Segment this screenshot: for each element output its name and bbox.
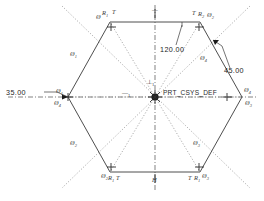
axis-vertical-label: ⊥1: [147, 79, 154, 87]
dimension-angle-corner-text[interactable]: 45.00: [224, 66, 244, 75]
vertex-label-left-lower[interactable]: Ø4: [53, 99, 62, 108]
vertex-label-bottom-left-r[interactable]: R1: [107, 174, 114, 183]
dimension-radius-text[interactable]: 35.00: [6, 88, 26, 97]
vertex-label-bottom-left-t[interactable]: T: [116, 174, 120, 181]
vertex-label-right-lower[interactable]: Ø3: [244, 99, 253, 108]
hexagon-edge-upper-left[interactable]: [68, 22, 110, 97]
vertex-label-top-left-t[interactable]: T: [112, 8, 116, 15]
spoke-to-bottom-left: [110, 97, 155, 172]
leader-angle-corner: [222, 46, 230, 68]
hexagon-edge-lower-left[interactable]: [68, 97, 110, 172]
leader-angle-interior: [176, 25, 182, 45]
edge-labels-group: Ø1 Ø2 Ø3 Ø4: [69, 50, 208, 148]
vertex-label-top-right-t[interactable]: T: [192, 9, 196, 16]
edge-label-2[interactable]: Ø2: [69, 139, 78, 148]
midpoint-marker-bottom[interactable]: H: [151, 176, 157, 183]
spoke-to-bottom-right: [155, 97, 200, 172]
edge-label-1[interactable]: Ø1: [69, 50, 77, 59]
vertex-label-bottom-right-r[interactable]: R1: [193, 174, 200, 183]
vertex-label-right-upper[interactable]: Ø4: [243, 86, 252, 95]
arrowhead-angle-corner: [213, 40, 219, 45]
spoke-to-top-left: [110, 22, 155, 97]
vertex-label-top-right-phi[interactable]: Ø2: [206, 11, 215, 20]
csys-marker[interactable]: [148, 90, 162, 104]
constraint-ticks-group[interactable]: [64, 9, 232, 183]
hexagon-edge-lower-right[interactable]: [200, 97, 242, 172]
vertex-label-top-left-r[interactable]: R1: [101, 9, 108, 18]
cad-sketch-svg[interactable]: 35.00 120.00 45.00 PRT_CSYS_DEF ⊥1 —1 Ø1…: [0, 0, 264, 201]
drawing-canvas: 35.00 120.00 45.00 PRT_CSYS_DEF ⊥1 —1 Ø1…: [0, 0, 264, 201]
edge-label-4[interactable]: Ø4: [199, 54, 208, 63]
arrowhead-radius: [62, 95, 68, 100]
edge-label-3[interactable]: Ø3: [192, 139, 201, 148]
spoke-to-top-right: [155, 22, 200, 97]
center-lines-group: [8, 5, 258, 190]
vertex-label-top-right-r[interactable]: R2: [197, 10, 205, 19]
dimension-angle-interior-text[interactable]: 120.00: [160, 45, 184, 54]
vertex-label-bottom-right-t[interactable]: T: [188, 174, 192, 181]
axis-constraint-labels: ⊥1 —1: [121, 79, 154, 98]
csys-label[interactable]: PRT_CSYS_DEF: [163, 89, 217, 97]
vertex-label-top-left-phi[interactable]: Ø: [95, 13, 101, 20]
vertex-label-bottom-right-phi[interactable]: Ø3: [201, 172, 210, 181]
vertex-label-left-upper[interactable]: Ø1: [55, 87, 63, 96]
midpoint-marker-top[interactable]: —: [151, 6, 158, 13]
axis-horizontal-label: —1: [121, 90, 130, 98]
